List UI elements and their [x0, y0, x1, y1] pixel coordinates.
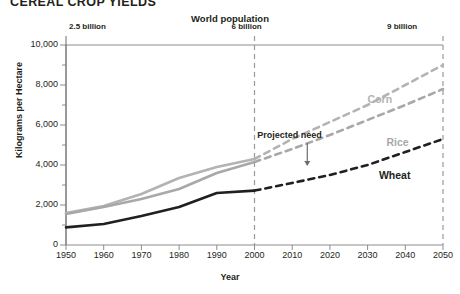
x-tick-label: 1990 — [197, 250, 237, 260]
x-tick-label: 1980 — [159, 250, 199, 260]
projected-need-annotation: Projected need — [257, 130, 322, 140]
series-projection-rice — [255, 89, 444, 162]
y-tick-label: 0 — [14, 239, 58, 249]
x-tick-label: 2010 — [272, 250, 312, 260]
x-tick-label: 1960 — [84, 250, 124, 260]
series-projection-corn — [255, 65, 444, 159]
y-tick-label: 4,000 — [14, 159, 58, 169]
series-label-corn: Corn — [368, 93, 393, 105]
x-tick-label: 2030 — [348, 250, 388, 260]
y-tick-label: 6,000 — [14, 119, 58, 129]
population-tick-label: 9 billion — [387, 22, 417, 31]
chart-container: CEREAL CROP YIELDS World population Kilo… — [0, 0, 460, 294]
y-tick-label: 8,000 — [14, 79, 58, 89]
y-tick-label: 2,000 — [14, 199, 58, 209]
population-tick-label: 6 billion — [232, 22, 262, 31]
annotation-arrow-head — [304, 161, 310, 166]
y-tick-label: 10,000 — [14, 39, 58, 49]
x-tick-label: 2040 — [385, 250, 425, 260]
x-tick-label: 1950 — [46, 250, 86, 260]
series-projection-wheat — [255, 139, 444, 191]
x-tick-label: 2050 — [423, 250, 460, 260]
x-tick-label: 2020 — [310, 250, 350, 260]
population-tick-label: 2.5 billion — [69, 22, 106, 31]
x-tick-label: 1970 — [121, 250, 161, 260]
series-line-corn — [66, 159, 255, 213]
x-tick-label: 2000 — [235, 250, 275, 260]
series-line-rice — [66, 162, 255, 214]
series-label-rice: Rice — [386, 136, 408, 148]
series-label-wheat: Wheat — [379, 169, 411, 181]
